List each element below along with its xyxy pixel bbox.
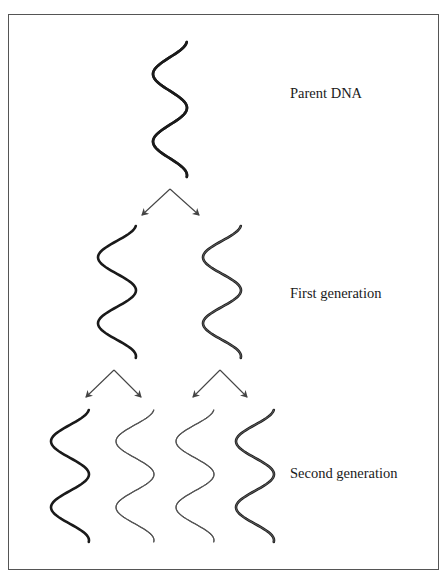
arrow-icon (170, 189, 199, 215)
arrow-icon (193, 370, 220, 397)
label-second-generation: Second generation (290, 465, 398, 482)
arrows (86, 189, 247, 397)
label-parent-dna: Parent DNA (290, 85, 362, 102)
parental-strand (98, 226, 136, 358)
parental-strand (153, 42, 187, 177)
arrow-icon (114, 370, 141, 397)
parental-strand (51, 410, 89, 542)
arrow-icon (220, 370, 247, 397)
new-strand (98, 226, 136, 358)
new-strand (176, 410, 214, 542)
helices (51, 42, 274, 542)
new-strand (51, 410, 89, 542)
new-strand (116, 410, 154, 542)
dna-helix-parent (153, 42, 187, 177)
dna-helix-gen2-b (116, 410, 154, 542)
dna-helix-gen2-a (51, 410, 89, 542)
dna-helix-gen2-c (176, 410, 214, 542)
new-strand (236, 410, 274, 542)
parental-strand (153, 42, 187, 177)
parental-strand (203, 226, 241, 358)
new-strand (203, 226, 241, 358)
dna-helix-gen1-left (98, 226, 136, 358)
dna-helix-gen2-d (236, 410, 274, 542)
arrow-icon (142, 189, 170, 215)
parental-strand (236, 410, 274, 542)
arrow-icon (86, 370, 114, 397)
dna-helix-gen1-right (203, 226, 241, 358)
label-first-generation: First generation (290, 285, 381, 302)
new-strand (176, 410, 214, 542)
new-strand (116, 410, 154, 542)
